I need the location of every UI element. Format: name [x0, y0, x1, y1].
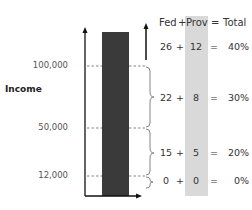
cell-prov: 0 [186, 175, 206, 186]
cell-total: 0% [221, 175, 249, 186]
header-total: Total [223, 17, 246, 28]
cell-fed: 22 [158, 92, 174, 103]
cell-prov: 5 [186, 147, 206, 158]
cell-fed: 15 [158, 147, 174, 158]
cell-total: 20% [221, 147, 249, 158]
upward-arrow-icon [144, 23, 149, 29]
cell-plus: + [175, 92, 185, 103]
cell-equals: = [209, 92, 219, 103]
x-axis-arrow-icon [136, 194, 142, 199]
bracket-20pct [146, 129, 154, 175]
cell-plus: + [175, 175, 185, 186]
brackets [146, 67, 154, 188]
header-equals: = [211, 17, 219, 28]
cell-prov: 12 [186, 41, 206, 52]
cell-equals: = [209, 147, 219, 158]
cell-prov: 8 [186, 92, 206, 103]
bracket-30pct [146, 67, 154, 127]
y-axis-arrow-icon [83, 27, 88, 33]
y-axis-title: Income [5, 84, 42, 94]
cell-total: 30% [221, 92, 249, 103]
cell-plus: + [175, 41, 185, 52]
income-bar [102, 32, 129, 196]
tick-label-50000: 50,000 [8, 122, 68, 132]
bracket-0pct [146, 177, 153, 188]
cell-fed: 0 [158, 175, 174, 186]
cell-equals: = [209, 41, 219, 52]
tick-label-100000: 100,000 [8, 60, 68, 70]
cell-total: 40% [221, 41, 249, 52]
header-fed: Fed [159, 17, 177, 28]
cell-equals: = [209, 175, 219, 186]
tick-label-12000: 12,000 [8, 170, 68, 180]
header-prov: Prov [186, 17, 208, 28]
cell-fed: 26 [158, 41, 174, 52]
cell-plus: + [175, 147, 185, 158]
